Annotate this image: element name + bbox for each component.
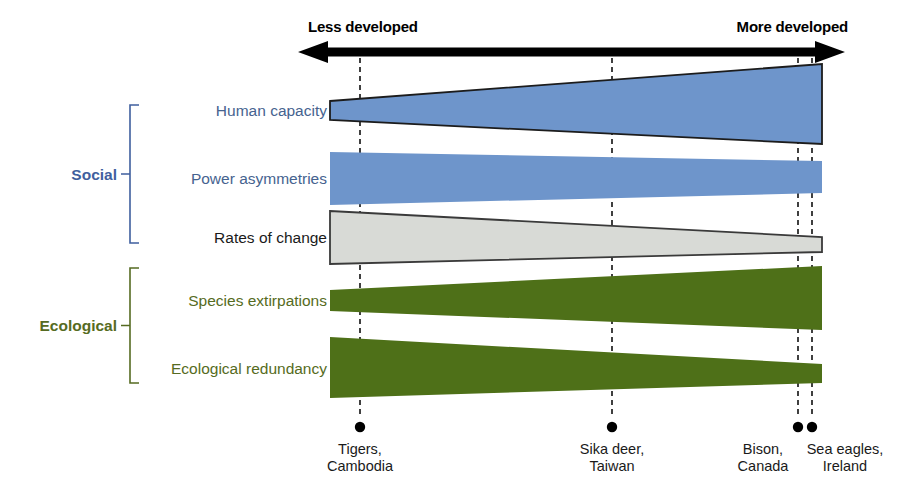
- group-label-ecological: Ecological: [39, 318, 117, 334]
- xtick-label-tigers-cambodia: Tigers, Cambodia: [327, 441, 393, 475]
- development-gradient-arrow: [298, 41, 845, 63]
- row-label-human-capacity: Human capacity: [216, 103, 327, 119]
- wedge-species-extirpations: [330, 266, 822, 330]
- row-label-rates-of-change: Rates of change: [214, 230, 327, 246]
- xtick-line2: Taiwan: [580, 458, 645, 475]
- group-label-social: Social: [71, 167, 117, 183]
- xtick-line1: Bison,: [738, 441, 789, 458]
- gradient-figure: Less developed More developed Human capa…: [0, 0, 910, 503]
- marker-dot-tigers-cambodia: [355, 422, 365, 432]
- bracket-ecological: [121, 268, 139, 383]
- xtick-label-sika-deer-taiwan: Sika deer, Taiwan: [580, 441, 645, 475]
- marker-dot-sika-deer-taiwan: [607, 422, 617, 432]
- row-label-species-extirpations: Species extirpations: [188, 293, 327, 309]
- xtick-line1: Sea eagles,: [807, 441, 884, 458]
- marker-dot-bison-canada: [793, 422, 803, 432]
- row-label-power-asymmetries: Power asymmetries: [191, 171, 327, 187]
- xtick-line2: Ireland: [807, 458, 884, 475]
- xtick-label-sea-eagles-ireland: Sea eagles, Ireland: [807, 441, 884, 475]
- row-label-ecological-redundancy: Ecological redundancy: [171, 361, 327, 377]
- xtick-line1: Sika deer,: [580, 441, 645, 458]
- xtick-line2: Cambodia: [327, 458, 393, 475]
- xtick-label-bison-canada: Bison, Canada: [738, 441, 789, 475]
- wedge-rates-of-change: [330, 211, 822, 264]
- bracket-social: [121, 105, 139, 243]
- xtick-line2: Canada: [738, 458, 789, 475]
- wedge-power-asymmetries: [330, 152, 822, 205]
- xtick-line1: Tigers,: [327, 441, 393, 458]
- figure-canvas: [0, 0, 910, 503]
- wedge-ecological-redundancy: [330, 337, 822, 398]
- marker-dot-sea-eagles-ireland: [807, 422, 817, 432]
- wedge-human-capacity: [330, 64, 822, 144]
